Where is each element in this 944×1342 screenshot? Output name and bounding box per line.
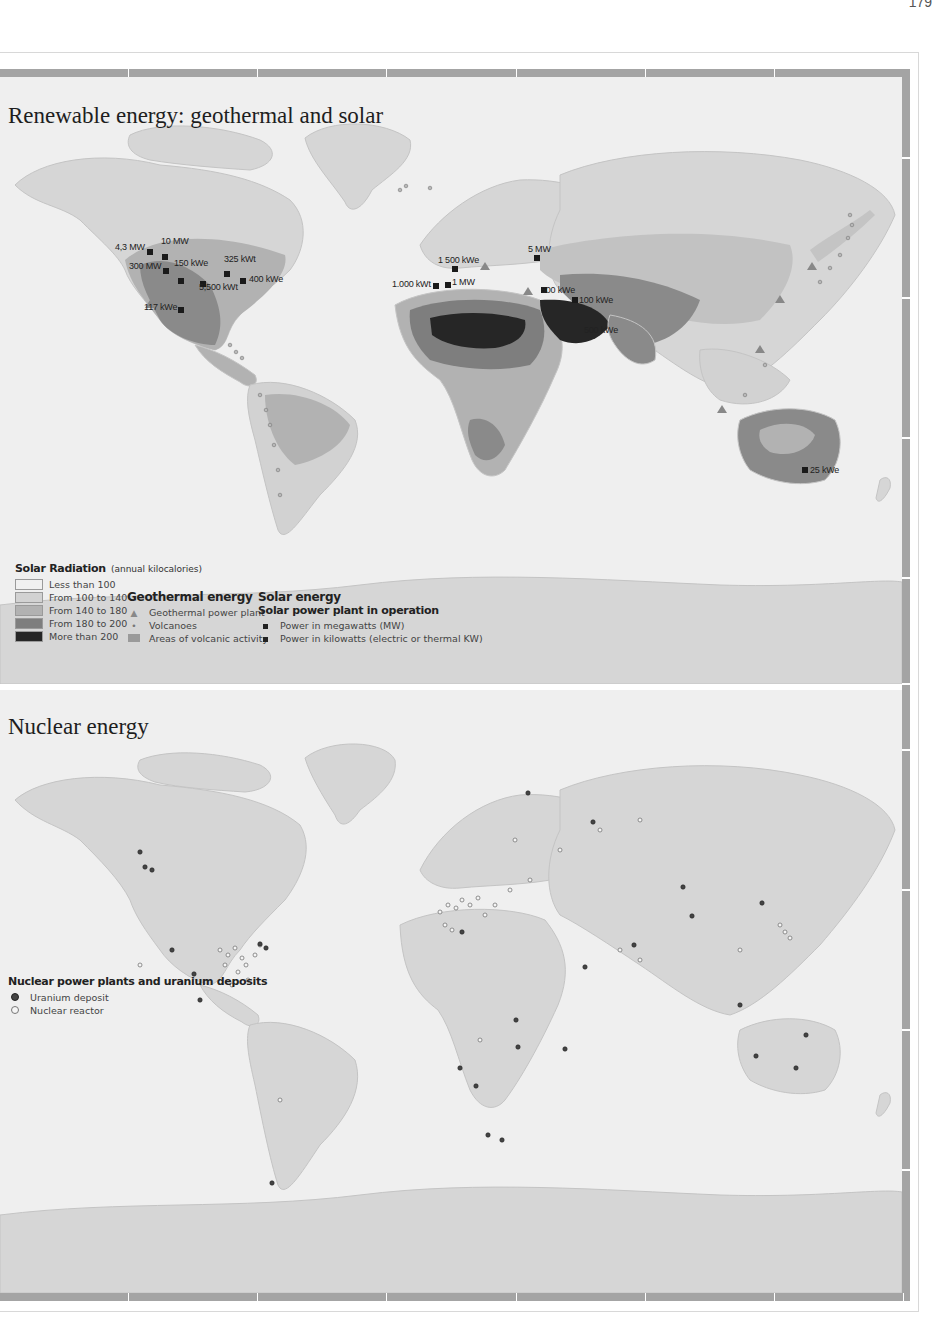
solar-plant-marker: [452, 266, 458, 272]
solar-plant-label: 1 MW: [452, 277, 475, 287]
solar-plant-marker: [445, 282, 451, 288]
solar-plant-label: 5,500 kWt: [199, 282, 238, 292]
legend-geothermal-title: Geothermal energy: [127, 590, 268, 604]
right-frame-bar: [902, 69, 910, 1301]
renewable-energy-map: Renewable energy: geothermal and solar: [0, 77, 902, 684]
solar-plant-marker: [147, 249, 153, 255]
solar-plant-label: 10 MW: [161, 236, 189, 246]
solar-plant-label: 400 kWe: [249, 274, 283, 284]
legend-item: Uranium deposit: [8, 991, 267, 1004]
solar-plant-label: 100 kWe: [579, 295, 613, 305]
map-title-renewable: Renewable energy: geothermal and solar: [8, 103, 383, 129]
area-swatch-icon: [127, 634, 141, 644]
solar-plant-marker: [163, 268, 169, 274]
solar-plant-marker: [178, 307, 184, 313]
solar-plant-label: 300 MW: [129, 261, 161, 271]
swatch-180-200: [15, 618, 43, 629]
page-number: 179: [909, 0, 932, 10]
solar-plant-marker: [178, 278, 184, 284]
solar-plant-marker: [224, 271, 230, 277]
swatch-gt200: [15, 631, 43, 642]
legend-item: Nuclear reactor: [8, 1004, 267, 1017]
swatch-140-180: [15, 605, 43, 616]
legend-solar-energy-subtitle: Solar power plant in operation: [258, 604, 483, 617]
top-frame-bar: [0, 69, 904, 77]
filled-circle-icon: [8, 993, 22, 1003]
solar-plant-marker: [433, 283, 439, 289]
solar-plant-label: 500 kWe: [584, 325, 618, 335]
square-icon: [258, 634, 272, 644]
legend-item: ▲Geothermal power plant: [127, 606, 268, 619]
nuclear-energy-map: Nuclear energy: [0, 690, 902, 1293]
solar-plant-label: 25 kWe: [810, 465, 839, 475]
solar-plant-marker: [162, 254, 168, 260]
solar-plant-label: 4,3 MW: [115, 242, 145, 252]
solar-plant-marker: [802, 467, 808, 473]
solar-plant-marker: [240, 278, 246, 284]
legend-item: Power in megawatts (MW): [258, 619, 483, 632]
solar-plant-marker: [572, 297, 578, 303]
dot-icon: •: [127, 621, 141, 631]
solar-plant-label: 325 kWt: [224, 254, 256, 264]
square-icon: [258, 621, 272, 631]
legend-item: Power in kilowatts (electric or thermal …: [258, 632, 483, 645]
solar-plant-label: 1.000 kWt: [392, 279, 431, 289]
solar-plant-label: 500 kWe: [541, 285, 575, 295]
swatch-lt100: [15, 579, 43, 590]
legend-solar-radiation-title: Solar Radiation: [15, 562, 106, 575]
map-title-nuclear: Nuclear energy: [8, 714, 149, 740]
legend-solar-radiation-subtitle: (annual kilocalories): [111, 564, 202, 574]
legend-item: Areas of volcanic activity: [127, 632, 268, 645]
solar-plant-label: 150 kWe: [174, 258, 208, 268]
legend-nuclear: Nuclear power plants and uranium deposit…: [8, 975, 267, 1017]
solar-plant-marker: [534, 255, 540, 261]
solar-plant-label: 117 kWe: [144, 302, 177, 312]
legend-solar-energy: Solar energy Solar power plant in operat…: [258, 590, 483, 645]
legend-item: •Volcanoes: [127, 619, 268, 632]
swatch-100-140: [15, 592, 43, 603]
solar-plant-label: 1 500 kWe: [438, 255, 479, 265]
solar-plant-label: 5 MW: [528, 244, 551, 254]
legend-geothermal: Geothermal energy ▲Geothermal power plan…: [127, 590, 268, 645]
triangle-icon: ▲: [127, 608, 141, 618]
legend-nuclear-title: Nuclear power plants and uranium deposit…: [8, 975, 267, 988]
hollow-circle-icon: [8, 1006, 22, 1016]
bottom-frame-bar: [0, 1293, 904, 1301]
legend-solar-energy-title: Solar energy: [258, 590, 483, 604]
